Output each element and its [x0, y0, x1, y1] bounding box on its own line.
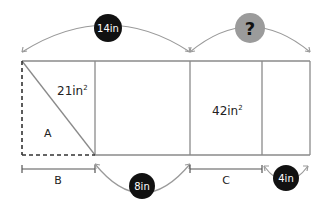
- question-mark-icon: ?: [245, 18, 255, 39]
- c-label: C: [222, 174, 230, 187]
- badge-unknown: ?: [235, 13, 265, 43]
- badge-14in-label: 14in: [97, 23, 119, 34]
- bottom-arc-4in: 4in: [264, 165, 308, 191]
- bottom-arc-8in: 8in: [95, 164, 190, 199]
- badge-4in-label: 4in: [278, 173, 293, 184]
- b-label: B: [54, 174, 62, 187]
- badge-14in: 14in: [94, 14, 122, 42]
- triangle-area-label: 21in2: [57, 84, 88, 98]
- dimension-c: C: [190, 165, 262, 187]
- badge-8in-label: 8in: [134, 181, 149, 192]
- area-diagram: 14in ? 21in2 42in2 A B 8in C: [0, 0, 328, 213]
- triangle-diagonal: [22, 61, 95, 155]
- triangle-a-label: A: [44, 127, 52, 140]
- dimension-b: B: [22, 165, 95, 187]
- main-rectangle: [22, 61, 310, 155]
- right-section-area-label: 42in2: [212, 104, 243, 118]
